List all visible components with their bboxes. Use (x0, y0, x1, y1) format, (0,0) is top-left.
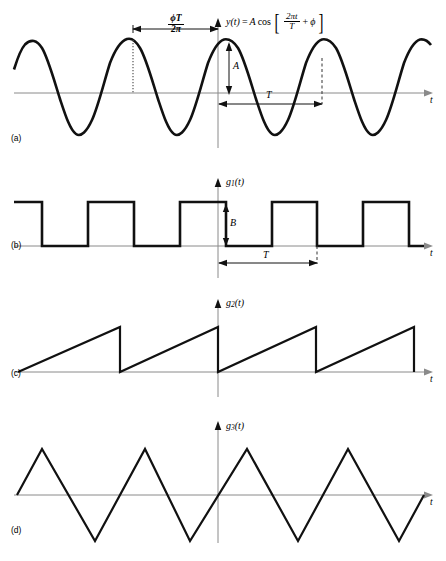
equation-bracket-close: ] (319, 13, 324, 32)
period-label-a: T (266, 89, 272, 100)
panel-d-triangular: g3(t) t (d) (0, 403, 446, 561)
panel-c-sawtooth: g2(t) t (c) (0, 285, 446, 403)
signal-label-c: g2(t) (226, 297, 244, 309)
panel-c-plot (0, 285, 446, 403)
panel-b-square: g1(t) B T t (b) (0, 160, 446, 285)
phase-shift-denominator: 2π (169, 25, 183, 35)
t-axis-label-b: t (430, 248, 433, 258)
signal-label-b: g1(t) (226, 176, 244, 188)
cosine-waveform (14, 39, 431, 135)
y-axis-arrowhead-d (215, 421, 222, 430)
y-axis-arrowhead-c (215, 299, 222, 308)
sawtooth-waveform (18, 327, 414, 372)
amplitude-label-b: B (230, 217, 236, 228)
equation-phase: ϕ (310, 16, 315, 27)
panel-tag-c: (c) (11, 368, 21, 378)
panel-tag-a: (a) (11, 133, 21, 143)
y-axis-arrowhead-a (215, 18, 222, 27)
equation-function: cos (258, 16, 271, 27)
panel-b-plot (0, 160, 446, 285)
signal-label-b-suffix: (t) (235, 176, 244, 187)
square-waveform (14, 202, 424, 246)
equation-bracket-open: [ (275, 13, 280, 32)
amplitude-arrow-up (226, 42, 232, 51)
period-label-b: T (263, 249, 269, 260)
period-arrow-left-b (218, 260, 227, 266)
equation-cosine: y(t) = A cos [ 2πt T + ϕ ] (226, 12, 325, 32)
equation-fraction: 2πt T (284, 12, 300, 32)
equation-lhs: y(t) (226, 16, 240, 27)
panel-tag-b: (b) (11, 240, 21, 250)
period-arrow-left-a (218, 101, 227, 107)
panel-d-plot (0, 403, 446, 561)
equation-plus: + (303, 16, 309, 27)
panel-a-plot (0, 0, 446, 160)
amplitude-arrow-up-b (223, 204, 229, 212)
figure-periodic-waveforms: y(t) = A cos [ 2πt T + ϕ ] ϕT 2π A T t (0, 0, 446, 561)
amplitude-label-a: A (233, 60, 239, 71)
signal-label-d-suffix: (t) (235, 420, 244, 431)
phase-shift-label: ϕT 2π (158, 14, 194, 35)
equation-amplitude: A (250, 16, 256, 27)
amplitude-arrow-down (226, 86, 232, 95)
equation-denominator: T (287, 22, 296, 31)
phase-shift-fraction: ϕT 2π (168, 14, 183, 35)
panel-tag-d: (d) (11, 525, 21, 535)
t-axis-label-c: t (430, 374, 433, 384)
t-axis-label-a: t (430, 95, 433, 105)
panel-a-cosine: y(t) = A cos [ 2πt T + ϕ ] ϕT 2π A T t (0, 0, 446, 160)
t-axis-label-d: t (430, 497, 433, 507)
equation-equals: = (242, 16, 248, 27)
signal-label-c-suffix: (t) (235, 297, 244, 308)
signal-label-d: g3(t) (226, 420, 244, 432)
y-axis-arrowhead-b (215, 178, 222, 187)
